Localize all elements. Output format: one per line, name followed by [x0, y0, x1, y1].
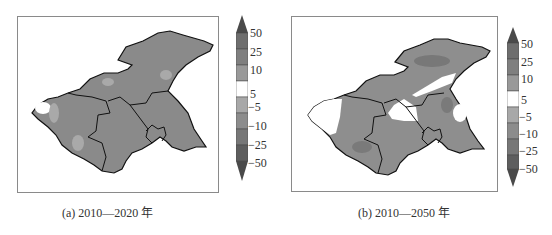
- choropleth-map-b: [292, 17, 497, 191]
- colorbar-b-tick: 25: [521, 56, 533, 68]
- colorbar-b-tick: −5: [519, 111, 532, 123]
- panel-a: 50 25 10 5 −5 −10 −25 −50 (a) 2010—2020 …: [0, 0, 276, 235]
- colorbar-b-tick: 5: [521, 94, 527, 106]
- colorbar-b-tick: −25: [519, 145, 538, 157]
- caption-a: (a) 2010—2020 年: [62, 203, 153, 221]
- colorbar-a: [236, 15, 248, 185]
- colorbar-b-tick: −10: [519, 128, 538, 140]
- colorbar-a-tick: 5: [250, 88, 256, 100]
- colorbar-b-tick: 10: [521, 73, 533, 85]
- colorbar-a-tick: 50: [250, 27, 262, 39]
- panel-b: 50 25 10 5 −5 −10 −25 −50 (b) 2010—2050 …: [276, 0, 552, 235]
- map-frame-b: [291, 16, 498, 192]
- colorbar-b-tick: 50: [521, 38, 533, 50]
- region-outline: [32, 31, 213, 173]
- colorbar-b: [507, 27, 519, 189]
- caption-b: (b) 2010—2050 年: [358, 203, 450, 221]
- colorbar-a-tick: −50: [248, 157, 267, 169]
- choropleth-map-a: [18, 17, 218, 192]
- map-frame-a: [17, 16, 219, 193]
- colorbar-a-tick: 25: [250, 46, 262, 58]
- colorbar-a-tick: −25: [248, 139, 267, 151]
- colorbar-a-tick: −5: [248, 101, 261, 113]
- colorbar-a-tick: −10: [248, 120, 267, 132]
- colorbar-b-tick: −50: [519, 163, 538, 175]
- colorbar-a-tick: 10: [250, 64, 262, 76]
